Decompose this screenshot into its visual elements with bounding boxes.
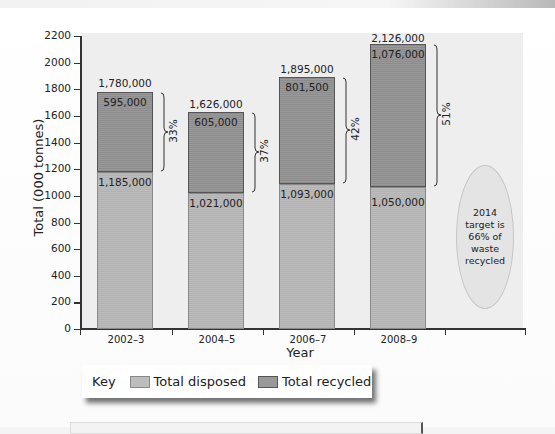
legend-label-recycled: Total recycled (282, 374, 371, 389)
recycled-percent: 42% (349, 114, 361, 144)
disposed-value: 1,093,000 (280, 188, 334, 200)
x-tick (263, 329, 264, 335)
bar-total-label: 1,895,000 (267, 63, 347, 75)
y-tick-label: 1600 (44, 109, 71, 121)
legend-swatch-disposed (130, 376, 150, 388)
y-axis-line (80, 36, 82, 330)
bar-segment-recycled: 801,500 (279, 77, 335, 184)
y-tick-label: 2000 (44, 56, 71, 68)
y-tick-label: 0 (64, 322, 71, 334)
bar-segment-disposed: 1,050,000 (370, 187, 426, 329)
y-tick (74, 116, 80, 117)
bar-total-label: 2,126,000 (358, 32, 438, 44)
bar-2004-5: 605,000 1,021,000 (188, 112, 244, 329)
x-tick-label: 2008–9 (364, 334, 434, 345)
target-annotation: 2014 target is 66% of waste recycled (456, 165, 514, 309)
y-tick-label: 1800 (44, 82, 71, 94)
y-tick (74, 169, 80, 170)
bar-segment-disposed: 1,021,000 (188, 193, 244, 329)
x-tick (80, 329, 81, 335)
legend: Key Total disposed Total recycled (82, 365, 372, 398)
bar-total-label: 1,780,000 (85, 77, 165, 89)
x-tick (172, 329, 173, 335)
bar-segment-recycled: 595,000 (97, 92, 153, 172)
y-tick (74, 63, 80, 64)
bar-segment-disposed: 1,093,000 (279, 184, 335, 329)
legend-title: Key (92, 374, 116, 389)
y-tick-label: 800 (51, 216, 71, 228)
y-tick (74, 143, 80, 144)
target-annotation-text: 2014 target is 66% of waste recycled (459, 207, 511, 267)
y-tick-label: 2200 (44, 29, 71, 41)
x-tick-label: 2004–5 (182, 334, 252, 345)
bar-segment-recycled: 1,076,000 (370, 44, 426, 187)
x-tick (525, 329, 526, 335)
recycled-value: 1,076,000 (371, 48, 425, 60)
y-tick (74, 276, 80, 277)
legend-swatch-recycled (258, 376, 278, 388)
y-tick-label: 600 (51, 242, 71, 254)
x-tick-label: 2006–7 (273, 334, 343, 345)
legend-label-disposed: Total disposed (154, 374, 246, 389)
y-tick-label: 1400 (44, 136, 71, 148)
x-axis-title: Year (270, 345, 330, 360)
y-tick-label: 200 (51, 295, 71, 307)
y-tick (74, 36, 80, 37)
y-tick-label: 400 (51, 269, 71, 281)
recycled-percent: 37% (258, 136, 270, 166)
y-tick-label: 1200 (44, 162, 71, 174)
top-shadow (0, 0, 555, 8)
x-tick-label: 2002–3 (91, 334, 161, 345)
disposed-value: 1,185,000 (98, 176, 152, 188)
x-tick (354, 329, 355, 335)
y-tick (74, 89, 80, 90)
y-tick-label: 1000 (44, 189, 71, 201)
recycled-value: 605,000 (189, 116, 243, 128)
recycled-percent: 51% (440, 99, 452, 129)
y-tick (74, 249, 80, 250)
bar-segment-disposed: 1,185,000 (97, 172, 153, 329)
x-tick (445, 329, 446, 335)
recycled-percent: 33% (167, 116, 179, 146)
y-axis-title: Total (000 tonnes) (31, 108, 46, 248)
bar-2002-3: 595,000 1,185,000 (97, 92, 153, 329)
recycled-value: 595,000 (98, 96, 152, 108)
bottom-panel (70, 422, 423, 434)
bar-2008-9: 1,076,000 1,050,000 (370, 44, 426, 329)
bar-total-label: 1,626,000 (176, 98, 256, 110)
y-tick (74, 196, 80, 197)
bar-2006-7: 801,500 1,093,000 (279, 77, 335, 329)
bar-segment-recycled: 605,000 (188, 112, 244, 193)
disposed-value: 1,050,000 (371, 196, 425, 208)
y-tick (74, 302, 80, 303)
disposed-value: 1,021,000 (189, 197, 243, 209)
recycled-value: 801,500 (280, 81, 334, 93)
y-tick (74, 223, 80, 224)
